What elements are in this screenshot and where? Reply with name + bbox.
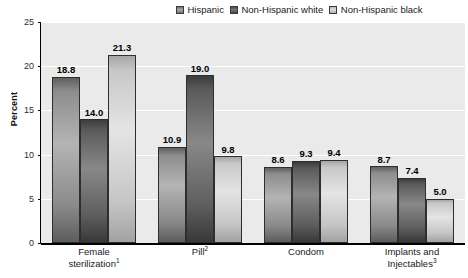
bar-wrapper: 14.0: [80, 119, 108, 243]
y-axis-line: [40, 22, 41, 244]
bar[interactable]: [320, 160, 348, 243]
bar-wrapper: 10.9: [158, 147, 186, 243]
x-axis-line: [41, 243, 465, 245]
bar-wrapper: 21.3: [108, 55, 136, 243]
category-label: Implants andInjectables3: [359, 246, 465, 269]
bar-value-label: 21.3: [113, 43, 132, 53]
bar[interactable]: [80, 119, 108, 243]
bar-wrapper: 7.4: [398, 178, 426, 243]
legend-item-non-hispanic-black[interactable]: Non-Hispanic black: [329, 5, 422, 15]
bar[interactable]: [158, 147, 186, 243]
bar[interactable]: [108, 55, 136, 243]
bar-value-label: 14.0: [85, 108, 104, 118]
bar[interactable]: [264, 167, 292, 243]
bar-value-label: 9.3: [299, 149, 312, 159]
bar-value-label: 8.7: [377, 155, 390, 165]
y-tick-label: 25: [6, 18, 34, 27]
bar[interactable]: [186, 75, 214, 243]
legend-swatch-icon: [329, 6, 337, 14]
bar-group: 10.919.09.8: [158, 22, 242, 243]
bar-value-label: 19.0: [191, 64, 210, 74]
legend-swatch-icon: [230, 6, 238, 14]
chart-legend: Hispanic Non-Hispanic white Non-Hispanic…: [176, 2, 468, 18]
bar[interactable]: [52, 77, 80, 243]
plot-area: 18.814.021.310.919.09.88.69.39.48.77.45.…: [41, 22, 465, 243]
bar[interactable]: [426, 199, 454, 243]
bar-wrapper: 5.0: [426, 199, 454, 243]
bar-wrapper: 18.8: [52, 77, 80, 243]
bar-group: 18.814.021.3: [52, 22, 136, 243]
y-tick-label: 0: [6, 239, 34, 248]
legend-label: Non-Hispanic black: [341, 5, 423, 15]
bar-group: 8.69.39.4: [264, 22, 348, 243]
bar-wrapper: 19.0: [186, 75, 214, 243]
bar[interactable]: [292, 161, 320, 243]
category-label: Femalesterilization1: [41, 246, 147, 269]
bar-value-label: 7.4: [405, 166, 418, 176]
bar-value-label: 18.8: [57, 65, 76, 75]
y-tick-label: 5: [6, 195, 34, 204]
bar-group: 8.77.45.0: [370, 22, 454, 243]
bar-wrapper: 9.4: [320, 160, 348, 243]
bar-value-label: 9.8: [221, 145, 234, 155]
bar[interactable]: [370, 166, 398, 243]
bar-wrapper: 8.7: [370, 166, 398, 243]
bar-wrapper: 9.3: [292, 161, 320, 243]
bar-value-label: 8.6: [271, 155, 284, 165]
bar-value-label: 10.9: [163, 135, 182, 145]
bar-value-label: 5.0: [433, 187, 446, 197]
legend-swatch-icon: [176, 6, 184, 14]
y-axis-title: Percent: [9, 79, 19, 139]
legend-label: Non-Hispanic white: [241, 5, 323, 15]
category-label: Pill2: [147, 246, 253, 258]
bar-value-label: 9.4: [327, 148, 340, 158]
bar-wrapper: 9.8: [214, 156, 242, 243]
x-axis-category-labels: Femalesterilization1Pill2CondomImplants …: [41, 246, 465, 278]
legend-label: Hispanic: [188, 5, 224, 15]
y-tick-label: 10: [6, 151, 34, 160]
bar[interactable]: [398, 178, 426, 243]
bar-wrapper: 8.6: [264, 167, 292, 243]
y-tick-label: 20: [6, 62, 34, 71]
chart-page: Hispanic Non-Hispanic white Non-Hispanic…: [0, 0, 468, 278]
bar[interactable]: [214, 156, 242, 243]
legend-item-non-hispanic-white[interactable]: Non-Hispanic white: [230, 5, 323, 15]
legend-item-hispanic[interactable]: Hispanic: [176, 5, 224, 15]
category-label: Condom: [253, 246, 359, 258]
